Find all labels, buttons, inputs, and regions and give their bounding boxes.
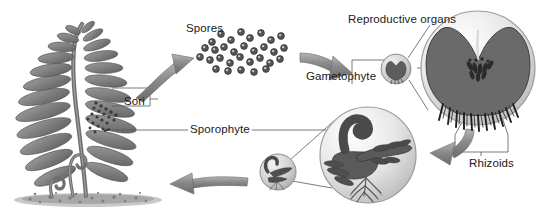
spore-dot-highlight	[259, 31, 261, 33]
label-spores: Spores	[186, 22, 223, 34]
adult-sporophyte-illustration	[14, 19, 162, 207]
magnify-cone-sporo-bottom	[292, 181, 332, 188]
diagram-canvas	[0, 0, 556, 217]
spore-dot-highlight	[248, 60, 250, 62]
spore-dot-highlight	[278, 57, 280, 59]
soil-ground	[14, 192, 162, 207]
gametophyte-magnified-illustration	[421, 11, 535, 131]
spore-dot	[238, 29, 245, 36]
spore-dot-highlight	[208, 58, 210, 60]
spore-dot-highlight	[238, 55, 240, 57]
spore-dot	[261, 44, 268, 51]
spore-dot-highlight	[282, 46, 284, 48]
spore-dot-highlight	[222, 45, 224, 47]
arrow-young-to-adult	[170, 173, 248, 194]
spore-dot	[231, 49, 238, 56]
spore-dot-highlight	[258, 56, 260, 58]
spore-dot	[277, 56, 284, 63]
spore-dot-highlight	[262, 45, 264, 47]
spore-dot	[212, 47, 219, 54]
spore-dot-highlight	[252, 70, 254, 72]
spore-dot-highlight	[232, 50, 234, 52]
spore-dot	[267, 60, 274, 67]
rhizoids-leader-b	[503, 120, 508, 135]
arrow-gametophyte-to-sporophyte	[430, 129, 474, 165]
spore-dot-highlight	[239, 68, 241, 70]
spore-dot-highlight	[203, 46, 205, 48]
spore-dot	[268, 37, 275, 44]
spore-dot-highlight	[228, 61, 230, 63]
spore-dot	[251, 69, 258, 76]
label-rhizoids: Rhizoids	[469, 157, 514, 169]
spore-dot	[281, 45, 288, 52]
spore-dot	[241, 43, 248, 50]
spore-dot	[209, 39, 216, 46]
label-gametophyte: Gametophyte	[306, 70, 376, 82]
spore-dot-highlight	[269, 38, 271, 40]
spore-dot-highlight	[210, 40, 212, 42]
spore-dot	[247, 59, 254, 66]
spore-dot-highlight	[214, 67, 216, 69]
spore-dot	[263, 66, 270, 73]
spore-dot	[197, 54, 204, 61]
spore-dot	[227, 60, 234, 67]
spore-dot	[237, 54, 244, 61]
spore-dot-highlight	[218, 56, 220, 58]
label-sporophyte: Sporophyte	[190, 123, 250, 135]
spore-dot-highlight	[268, 61, 270, 63]
spore-dot-highlight	[248, 36, 250, 38]
spore-dot-highlight	[213, 48, 215, 50]
spore-dot	[228, 37, 235, 44]
label-reproductive-organs: Reproductive organs	[348, 13, 456, 25]
spore-dot	[271, 49, 278, 56]
spore-dot	[238, 67, 245, 74]
spore-cloud	[197, 29, 288, 76]
spore-dot-highlight	[279, 34, 281, 36]
young-sporophyte-small-illustration	[260, 154, 296, 190]
spore-dot	[258, 30, 265, 37]
young-sporophyte-magnified-illustration	[320, 107, 416, 203]
spore-dot	[202, 45, 209, 52]
spore-dot-highlight	[272, 50, 274, 52]
spore-dot	[217, 55, 224, 62]
spore-dot	[278, 33, 285, 40]
spore-dot-highlight	[242, 44, 244, 46]
spore-dot	[251, 48, 258, 55]
label-sori: Sori	[124, 95, 145, 107]
spore-dot-highlight	[264, 67, 266, 69]
fern-life-cycle-figure: Spores Sori Reproductive organs Gametoph…	[0, 0, 556, 217]
spore-dot	[213, 66, 220, 73]
spore-dot-highlight	[229, 38, 231, 40]
spore-dot	[221, 44, 228, 51]
spore-dot-highlight	[226, 69, 228, 71]
spore-dot	[247, 35, 254, 42]
spore-dot-highlight	[198, 55, 200, 57]
spore-dot-highlight	[239, 30, 241, 32]
gametophyte-small-illustration	[381, 54, 411, 84]
spore-dot-highlight	[252, 49, 254, 51]
spore-dot	[225, 68, 232, 75]
spore-dot	[257, 55, 264, 62]
spore-dot	[207, 57, 214, 64]
